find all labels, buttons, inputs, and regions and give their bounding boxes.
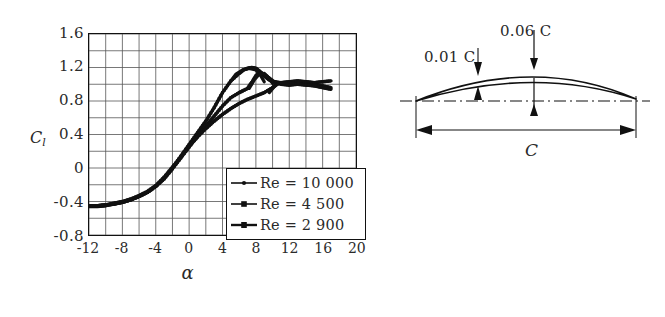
y-axis-title: Cl	[30, 128, 46, 149]
legend-item-label: Re = 10 000	[260, 175, 354, 191]
re-4500-marker	[230, 198, 258, 210]
y-axis-title-subscript: l	[42, 136, 46, 149]
x-tick-label: 8	[252, 240, 261, 256]
camber-arrow-down	[530, 58, 538, 70]
chord-arrow-right	[620, 125, 636, 135]
y-tick-label: 0.8	[59, 91, 84, 109]
x-axis-title: α	[0, 262, 375, 283]
legend-item-label: Re = 4 500	[260, 196, 344, 212]
y-tick-label: 1.2	[59, 57, 84, 75]
x-tick-label: 0	[184, 240, 193, 256]
airfoil-profile	[416, 77, 636, 101]
x-tick-label: -12	[77, 240, 100, 256]
x-tick-label: 16	[314, 240, 332, 256]
lift-coefficient-chart: 1.6 1.2 0.8 0.4 0 -0.4 -0.8 Cl -12 -8 -4…	[0, 0, 375, 317]
x-tick-label: 12	[281, 240, 299, 256]
legend-item: Re = 10 000	[230, 172, 361, 193]
x-tick-label: 4	[218, 240, 227, 256]
y-tick-label: 0.4	[59, 125, 84, 143]
y-axis-title-main: C	[30, 128, 42, 147]
airfoil-diagram: 0.06 C 0.01 C C	[378, 0, 665, 317]
thickness-arrow-down	[474, 62, 482, 76]
chord-arrow-left	[416, 125, 432, 135]
figure-root: 1.6 1.2 0.8 0.4 0 -0.4 -0.8 Cl -12 -8 -4…	[0, 0, 665, 317]
legend-item-label: Re = 2 900	[260, 217, 344, 233]
legend-item: Re = 4 500	[230, 193, 361, 214]
x-tick-label: -8	[115, 240, 129, 256]
x-axis-tick-labels: -12 -8 -4 0 4 8 12 16 20	[0, 240, 375, 262]
x-tick-label: -4	[148, 240, 162, 256]
y-tick-label: -0.4	[53, 193, 84, 211]
legend-item: Re = 2 900	[230, 214, 361, 235]
thickness-arrow-up	[474, 86, 482, 100]
airfoil-section-drawing	[378, 8, 665, 188]
y-tick-label: 0	[74, 159, 84, 177]
camber-arrow-up	[530, 104, 538, 116]
re-2900-marker	[230, 219, 258, 231]
chart-legend: Re = 10 000 Re = 4 500 R	[226, 168, 366, 240]
y-tick-label: 1.6	[59, 24, 84, 42]
x-tick-label: 20	[348, 240, 366, 256]
re-10000-marker	[230, 177, 258, 189]
